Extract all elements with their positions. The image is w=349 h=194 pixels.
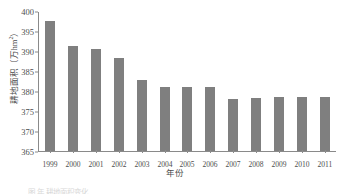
x-axis-tick-mark	[73, 150, 74, 153]
bar-slot	[199, 12, 222, 151]
x-axis-tick-mark	[256, 150, 257, 153]
y-axis-tick-mark	[35, 152, 38, 153]
bar-slot	[313, 12, 336, 151]
y-axis-tick-mark	[35, 112, 38, 113]
bar[interactable]	[182, 87, 192, 151]
plot-area: 365370375380385390395400	[38, 12, 336, 152]
x-axis-title: 年份	[0, 166, 349, 178]
bar-slot	[222, 12, 245, 151]
y-axis-title-main: 耕地面积（万hm	[9, 40, 19, 105]
y-axis-tick-mark	[35, 72, 38, 73]
bar[interactable]	[205, 87, 215, 151]
x-axis-tick-mark	[210, 150, 211, 153]
bar-slot	[153, 12, 176, 151]
figure-caption: 图 年 耕地面积变化	[28, 186, 328, 194]
bar-slot	[245, 12, 268, 151]
bar-slot	[85, 12, 108, 151]
x-axis-tick-mark	[302, 150, 303, 153]
bar[interactable]	[45, 21, 55, 151]
bar[interactable]	[274, 97, 284, 151]
bar-slot	[130, 12, 153, 151]
bar-series	[39, 12, 336, 151]
y-axis-tick-mark	[35, 92, 38, 93]
bar[interactable]	[251, 98, 261, 151]
y-axis-tick-mark	[35, 32, 38, 33]
x-axis-tick-mark	[96, 150, 97, 153]
y-axis-tick-mark	[35, 132, 38, 133]
bar[interactable]	[68, 46, 78, 151]
x-axis-tick-mark	[233, 150, 234, 153]
x-axis-tick-mark	[187, 150, 188, 153]
bar-chart-figure: 耕地面积（万hm2） 365370375380385390395400 1999…	[0, 0, 349, 194]
bar[interactable]	[320, 97, 330, 151]
y-axis-title-superscript: 2	[8, 37, 14, 40]
bar[interactable]	[297, 97, 307, 151]
x-axis-tick-mark	[325, 150, 326, 153]
x-axis-tick-mark	[50, 150, 51, 153]
bar[interactable]	[91, 49, 101, 151]
bar-slot	[62, 12, 85, 151]
bar[interactable]	[228, 99, 238, 151]
y-axis-tick-mark	[35, 12, 38, 13]
bar-slot	[290, 12, 313, 151]
bar[interactable]	[114, 58, 124, 151]
x-axis-tick-mark	[119, 150, 120, 153]
bar-slot	[39, 12, 62, 151]
y-axis-title: 耕地面积（万hm2）	[7, 1, 19, 131]
bar-slot	[108, 12, 131, 151]
x-axis-tick-mark	[279, 150, 280, 153]
x-axis-tick-mark	[165, 150, 166, 153]
bar-slot	[176, 12, 199, 151]
bar-slot	[267, 12, 290, 151]
x-axis-tick-mark	[142, 150, 143, 153]
bar[interactable]	[137, 80, 147, 151]
y-axis-title-tail: ）	[9, 28, 19, 37]
y-axis-tick-mark	[35, 52, 38, 53]
bar[interactable]	[160, 87, 170, 151]
